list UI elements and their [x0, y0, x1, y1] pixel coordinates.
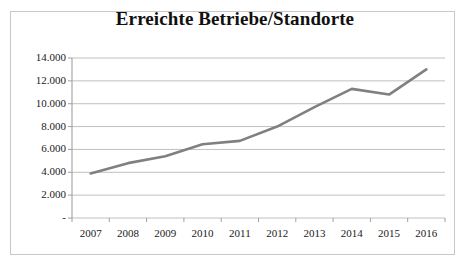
x-axis-tick-label: 2010	[192, 227, 214, 239]
chart-figure: Erreichte Betriebe/Standorte -2.0004.000…	[0, 0, 470, 265]
x-axis-tick-label: 2007	[80, 227, 102, 239]
x-axis-tick-label: 2015	[378, 227, 400, 239]
x-axis-tick-label: 2013	[303, 227, 325, 239]
x-axis-tick-label: 2011	[229, 227, 251, 239]
x-axis-tick-label: 2009	[154, 227, 176, 239]
x-axis-tick-label: 2014	[341, 227, 363, 239]
x-axis-tick-label: 2008	[117, 227, 139, 239]
x-axis-tick-label: 2012	[266, 227, 288, 239]
x-axis-labels: 2007200820092010201120122013201420152016	[0, 0, 470, 265]
x-axis-tick-label: 2016	[415, 227, 437, 239]
